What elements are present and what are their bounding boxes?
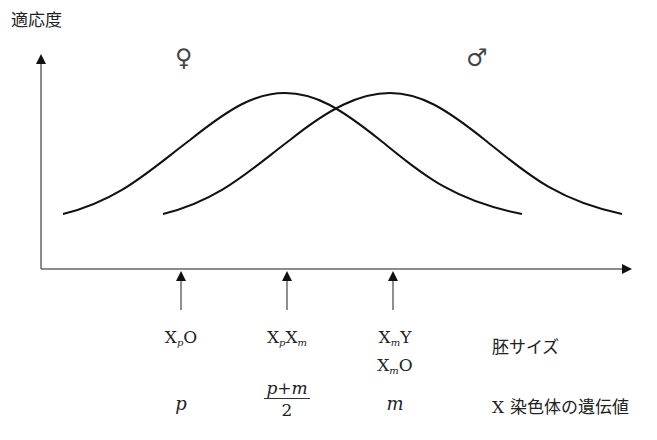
female-curve bbox=[63, 93, 522, 214]
plot-area bbox=[0, 0, 657, 440]
value-m: m bbox=[350, 393, 440, 414]
row-label-x-genetic-value: X 染色体の遺伝値 bbox=[492, 393, 629, 418]
fraction-numerator: p+m bbox=[264, 378, 309, 399]
genotype-xmo: XmO bbox=[350, 354, 440, 382]
male-curve bbox=[163, 93, 622, 214]
genotype-xmy: XmY bbox=[350, 326, 440, 354]
female-symbol-icon: ♀ bbox=[175, 44, 193, 72]
value-mid-fraction: p+m 2 bbox=[242, 378, 332, 421]
row-label-embryo-size: 胚サイズ bbox=[492, 333, 559, 358]
genotype-xmy-xmo: XmY XmO bbox=[350, 326, 440, 382]
fraction-denominator: 2 bbox=[264, 399, 309, 421]
y-axis-label: 適応度 bbox=[11, 6, 62, 31]
value-p: p bbox=[136, 393, 226, 414]
genotype-xpo: XpO bbox=[136, 326, 226, 354]
genotype-xpxm: XpXm bbox=[242, 326, 332, 354]
male-symbol-icon: ♂ bbox=[466, 44, 488, 72]
